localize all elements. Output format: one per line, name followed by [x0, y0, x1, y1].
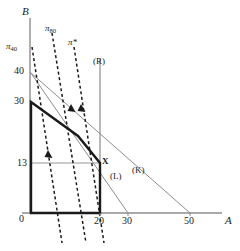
- axes-group: [22, 18, 222, 213]
- xtick-label-30: 30: [122, 216, 132, 226]
- xtick-label-20: 20: [94, 216, 104, 226]
- xtick-label-50: 50: [184, 216, 194, 226]
- arrow-icon-2: [68, 104, 76, 112]
- ytick-label-30: 30: [14, 96, 24, 106]
- isoprofit-label-pistar: π*: [68, 38, 77, 47]
- chart-canvas: [0, 0, 240, 251]
- ytick-label-13: 13: [17, 158, 27, 168]
- xtick-label-0: 0: [19, 214, 24, 224]
- y-axis-label: B: [22, 6, 29, 17]
- ytick-label-40: 40: [14, 66, 24, 76]
- x-axis-label: A: [225, 215, 232, 226]
- economics-frontier-chart: B A 0 20 30 50 13 30 40 π40 π80 π* (R) (…: [0, 0, 240, 251]
- pi40-subscript: 40: [11, 45, 18, 52]
- curve-label-K: (K): [132, 166, 145, 175]
- isoprofit-label-pi40: π40: [6, 42, 17, 51]
- curve-label-R: (R): [93, 57, 105, 66]
- line-L: [31, 73, 129, 214]
- arrow-icon-3: [78, 104, 86, 112]
- pi40-symbol: π: [6, 41, 11, 51]
- arrow-icon-1: [45, 150, 53, 158]
- isoprofit-label-pi80: π80: [45, 24, 56, 33]
- point-label-X: X: [102, 157, 109, 166]
- curve-label-L: (L): [110, 172, 122, 181]
- pi80-subscript: 80: [50, 27, 57, 34]
- pi80-symbol: π: [45, 23, 50, 33]
